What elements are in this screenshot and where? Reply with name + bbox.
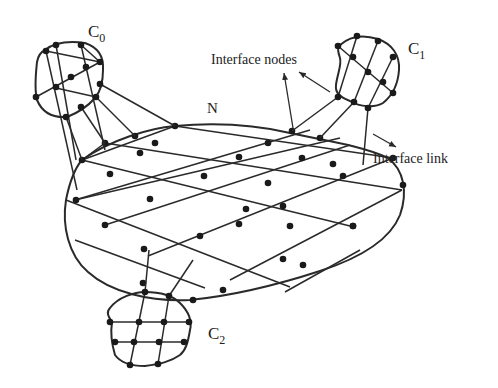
diagram-svg: C0 C1 C2 N Interface nodes Interface lin…	[0, 0, 498, 388]
label-n: N	[207, 100, 218, 116]
central-network-n	[65, 123, 406, 304]
label-c2: C2	[208, 324, 225, 347]
label-c1: C1	[408, 39, 425, 62]
cluster-c0	[33, 42, 175, 190]
network-n-nodes	[73, 123, 407, 304]
network-diagram: C0 C1 C2 N Interface nodes Interface lin…	[0, 0, 498, 388]
interface-nodes-arrow-1	[284, 73, 293, 128]
label-c0: C0	[88, 22, 105, 45]
interface-nodes-arrow-2	[299, 72, 330, 92]
label-interface-nodes: Interface nodes	[211, 52, 297, 67]
network-n-boundary	[65, 124, 404, 300]
interface-link-arrow	[373, 134, 396, 147]
cluster-c2-boundary	[108, 292, 191, 366]
label-interface-link: Interface link	[373, 151, 448, 166]
